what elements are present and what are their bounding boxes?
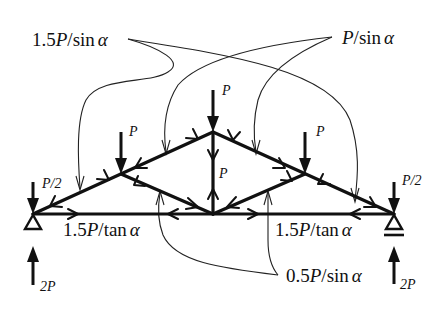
label-p-sin: P/sinα <box>341 27 395 48</box>
reaction-label-right: 2P <box>400 277 416 292</box>
label-1p5-tan-right: 1.5P/tanα <box>275 219 353 240</box>
truss-diagram: 1.5P/sinα P/sinα 1.5P/tanα 1.5P/tanα 0.5… <box>0 0 445 312</box>
load-label-left-upper: P <box>128 124 138 139</box>
inner-diagonal-left <box>121 174 213 214</box>
load-label-apex: P <box>221 83 231 98</box>
roller-support-icon <box>386 215 402 229</box>
truss-members <box>33 132 394 214</box>
arrow-up-icon <box>388 246 400 262</box>
label-0p5-sin: 0.5P/sinα <box>286 265 363 286</box>
reaction-label-left: 2P <box>40 279 56 294</box>
load-label-right-upper: P <box>315 124 325 139</box>
arrow-down-icon <box>207 116 219 132</box>
labels: 1.5P/sinα P/sinα 1.5P/tanα 1.5P/tanα 0.5… <box>32 27 421 294</box>
label-1p5-tan-left: 1.5P/tanα <box>63 219 141 240</box>
label-1p5-sin: 1.5P/sinα <box>32 29 109 50</box>
pin-support-icon <box>25 215 41 229</box>
arrow-icon <box>97 170 109 180</box>
arrow-icon <box>281 171 292 181</box>
load-label-left-support: P/2 <box>41 176 61 191</box>
leader-1p5-sin-left <box>78 39 173 188</box>
leader-p-sin-left <box>165 37 332 152</box>
arrow-icon <box>186 129 198 139</box>
leader-0p5-sin-left <box>159 193 278 275</box>
arrow-up-icon <box>27 246 39 262</box>
load-label-vertical: P <box>218 166 228 181</box>
load-label-right-support: P/2 <box>401 173 421 188</box>
